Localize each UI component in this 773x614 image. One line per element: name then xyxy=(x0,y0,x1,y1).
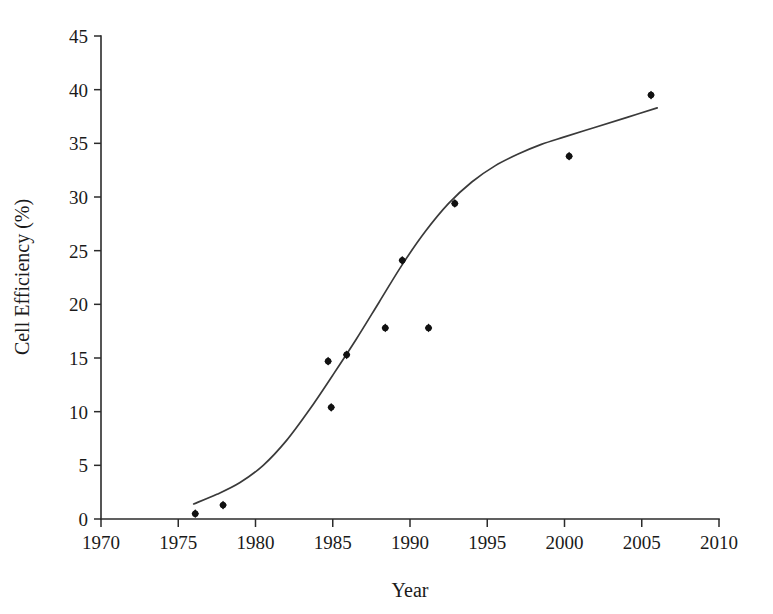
y-tick-label: 30 xyxy=(69,187,88,208)
data-point-core xyxy=(566,153,572,159)
x-tick-label: 1995 xyxy=(468,532,506,553)
x-tick-label: 2010 xyxy=(700,532,738,553)
data-point-core xyxy=(343,352,349,358)
x-tick-group: 197019751980198519901995200020052010 xyxy=(82,519,738,553)
x-axis: 197019751980198519901995200020052010 xyxy=(82,519,738,553)
x-tick-label: 1975 xyxy=(159,532,197,553)
y-tick-label: 10 xyxy=(69,402,88,423)
chart-figure: 051015202530354045 197019751980198519901… xyxy=(0,0,773,614)
chart-canvas: 051015202530354045 197019751980198519901… xyxy=(0,0,773,614)
y-tick-label: 25 xyxy=(69,241,88,262)
data-point-core xyxy=(220,502,226,508)
y-axis-title: Cell Efficiency (%) xyxy=(11,199,34,355)
y-axis: 051015202530354045 xyxy=(69,26,101,530)
y-tick-label: 15 xyxy=(69,348,88,369)
y-tick-label: 20 xyxy=(69,294,88,315)
y-tick-group: 051015202530354045 xyxy=(69,26,101,530)
data-point-core xyxy=(425,325,431,331)
y-tick-label: 45 xyxy=(69,26,88,47)
data-point-core xyxy=(452,200,458,206)
x-tick-label: 2000 xyxy=(546,532,584,553)
x-tick-label: 1970 xyxy=(82,532,120,553)
x-tick-label: 1980 xyxy=(237,532,275,553)
x-tick-label: 1990 xyxy=(391,532,429,553)
y-tick-label: 5 xyxy=(79,455,89,476)
data-point-core xyxy=(399,257,405,263)
data-point-core xyxy=(382,325,388,331)
y-tick-label: 0 xyxy=(79,509,89,530)
data-point-core xyxy=(192,510,198,516)
data-point-group xyxy=(192,91,655,518)
trend-curve-path xyxy=(194,108,658,504)
y-tick-label: 40 xyxy=(69,80,88,101)
x-tick-label: 2005 xyxy=(623,532,661,553)
data-point-core xyxy=(325,358,331,364)
data-point-core xyxy=(328,404,334,410)
fitted-trend-curve xyxy=(194,108,658,504)
y-tick-label: 35 xyxy=(69,133,88,154)
x-tick-label: 1985 xyxy=(314,532,352,553)
x-axis-title: Year xyxy=(392,579,429,601)
data-point-core xyxy=(648,92,654,98)
